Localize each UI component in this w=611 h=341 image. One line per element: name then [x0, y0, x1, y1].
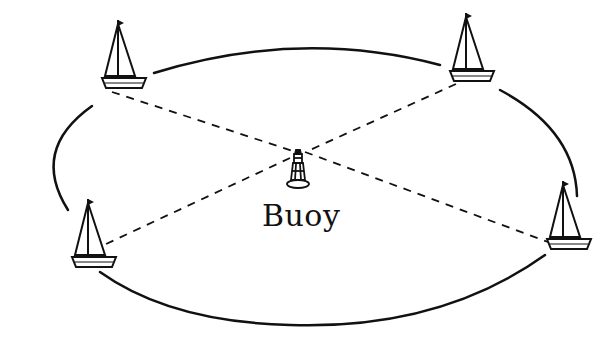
- sailboat-icon: [72, 199, 116, 267]
- course-ellipse: [54, 48, 577, 325]
- buoy-label: Buoy: [262, 198, 340, 233]
- connector-top-right: [310, 84, 456, 150]
- diagram-canvas: [0, 0, 611, 341]
- sailboat-icon: [102, 20, 146, 88]
- sailboat-icon: [450, 13, 494, 81]
- sailboat-icon: [547, 181, 591, 249]
- connector-top-left: [112, 92, 296, 152]
- buoy-icon: [287, 150, 309, 188]
- connector-bottom-right: [305, 152, 548, 242]
